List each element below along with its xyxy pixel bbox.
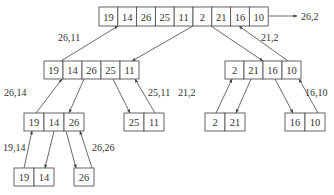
cell-value: 19	[103, 12, 114, 23]
cell-value: 26	[69, 117, 80, 128]
max-min-label: 26,11	[58, 32, 80, 43]
cell-value: 10	[310, 117, 321, 128]
labels-layer: 26,226,1121,226,1425,1121,216,1019,1426,…	[3, 11, 328, 153]
cell-value: 14	[39, 172, 50, 183]
cell-value: 2	[200, 12, 205, 23]
arrow-edge	[113, 79, 130, 113]
cell-value: 11	[179, 12, 189, 23]
max-min-label: 19,14	[3, 142, 26, 153]
cell-value: 16	[267, 65, 278, 76]
max-min-label: 16,10	[305, 87, 328, 98]
cell-value: 16	[290, 117, 301, 128]
cell-value: 25	[129, 117, 140, 128]
cell-value: 2	[232, 65, 237, 76]
cell-value: 19	[19, 172, 30, 183]
array-node-LLR: 26	[74, 168, 94, 186]
arrow-edge	[69, 79, 84, 113]
cell-value: 21	[216, 12, 227, 23]
max-min-label: 26,14	[4, 87, 27, 98]
cell-value: 26	[86, 65, 97, 76]
cell-value: 14	[122, 12, 133, 23]
arrow-edge	[36, 79, 62, 113]
arrow-edge	[132, 26, 193, 61]
cell-value: 11	[149, 117, 159, 128]
arrow-edge	[45, 131, 54, 168]
cell-value: 16	[235, 12, 246, 23]
arrow-edge	[80, 131, 92, 168]
cell-value: 25	[160, 12, 171, 23]
cell-value: 26	[79, 172, 90, 183]
max-min-label: 21,2	[178, 87, 196, 98]
array-node-L: 1914262511	[44, 61, 139, 79]
merge-tree-diagram: 1914262511221161019142625112211610191426…	[0, 0, 334, 195]
array-node-RL: 221	[205, 113, 245, 131]
array-node-LR: 2511	[124, 113, 164, 131]
max-min-label: 21,2	[261, 32, 279, 43]
arrow-edge	[211, 26, 263, 61]
arrow-edge	[236, 79, 251, 113]
cell-value: 19	[29, 117, 40, 128]
max-min-label: 26,2	[301, 11, 319, 22]
cell-value: 14	[67, 65, 78, 76]
cell-value: 25	[105, 65, 116, 76]
arrow-edge	[66, 131, 76, 168]
max-min-label: 26,26	[92, 142, 115, 153]
cell-value: 2	[212, 117, 217, 128]
array-node-R: 2211610	[225, 61, 301, 79]
cell-value: 11	[124, 65, 134, 76]
cell-value: 21	[230, 117, 241, 128]
cell-value: 10	[286, 65, 297, 76]
arrow-edge	[216, 79, 232, 113]
cell-value: 10	[254, 12, 265, 23]
cell-value: 19	[48, 65, 59, 76]
array-node-root: 19142625112211610	[99, 7, 268, 26]
cell-value: 14	[49, 117, 60, 128]
array-node-LLL: 1914	[14, 168, 54, 186]
array-node-LL: 191426	[24, 113, 84, 131]
arrow-edge	[275, 79, 293, 113]
max-min-label: 25,11	[148, 87, 170, 98]
cell-value: 21	[248, 65, 259, 76]
array-node-RR: 1610	[285, 113, 325, 131]
cell-value: 26	[141, 12, 152, 23]
